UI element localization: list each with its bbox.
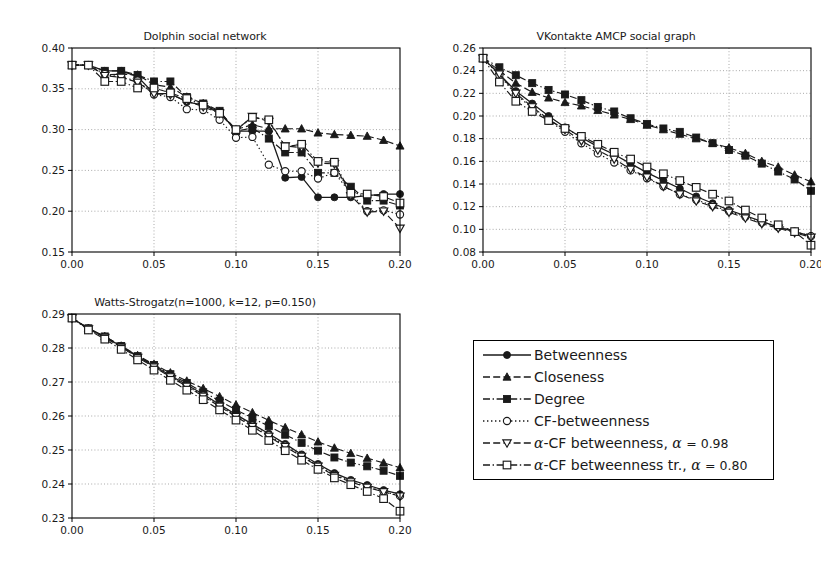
open-circle-marker bbox=[183, 106, 190, 113]
legend-item[interactable]: Degree bbox=[480, 388, 773, 410]
x-tick-label: 0.20 bbox=[388, 524, 411, 536]
open-square-marker bbox=[676, 177, 684, 185]
axis-ticks: 0.230.240.250.260.270.280.290.000.050.10… bbox=[42, 308, 412, 536]
filled-square-marker bbox=[167, 78, 174, 85]
legend-item-label: Closeness bbox=[534, 366, 604, 388]
filled-square-marker bbox=[594, 103, 601, 110]
x-tick-label: 0.05 bbox=[142, 258, 165, 270]
filled-square-marker bbox=[775, 168, 782, 175]
filled-square-marker bbox=[709, 140, 716, 147]
open-square-marker bbox=[561, 125, 569, 133]
legend-item[interactable]: Betweenness bbox=[480, 344, 773, 366]
chart-plot-watts-strogatz: 0.230.240.250.260.270.280.290.000.050.10… bbox=[0, 292, 410, 542]
open-square-marker bbox=[758, 214, 766, 222]
filled-square-marker bbox=[265, 135, 272, 142]
legend-item[interactable]: α-CF betweenness, α = 0.98 bbox=[480, 432, 773, 454]
y-tick-label: 0.14 bbox=[453, 178, 477, 190]
filled-square-marker bbox=[298, 439, 305, 446]
filled-square-marker bbox=[791, 176, 798, 183]
chart-legend: BetweennessClosenessDegreeCF-betweenness… bbox=[473, 340, 774, 480]
y-tick-label: 0.22 bbox=[453, 87, 476, 99]
x-tick-label: 0.20 bbox=[799, 258, 821, 270]
open-square-marker bbox=[85, 326, 93, 334]
open-circle-marker bbox=[249, 133, 256, 140]
y-tick-label: 0.15 bbox=[42, 246, 65, 258]
filled-square-marker bbox=[578, 97, 585, 104]
filled-triangle-up-marker bbox=[512, 79, 520, 86]
open-square-marker bbox=[791, 228, 799, 236]
open-square-marker bbox=[199, 101, 207, 109]
open-square-marker bbox=[298, 456, 306, 464]
filled-triangle-up-marker bbox=[281, 423, 289, 430]
chart-panel-vkontakte: VKontakte AMCP social graph 0.080.100.12… bbox=[411, 26, 821, 276]
open-square-marker bbox=[134, 356, 142, 364]
open-square-marker bbox=[232, 126, 240, 134]
open-square-marker bbox=[692, 184, 700, 192]
y-tick-label: 0.40 bbox=[42, 42, 65, 54]
chart-title-watts-strogatz: Watts-Strogatz(n=1000, k=12, p=0.150) bbox=[0, 296, 410, 309]
open-square-marker bbox=[578, 133, 586, 141]
filled-square-marker bbox=[331, 454, 338, 461]
y-tick-label: 0.08 bbox=[453, 246, 476, 258]
filled-square-marker bbox=[496, 64, 503, 71]
open-square-marker bbox=[725, 197, 733, 205]
chart-panel-watts-strogatz: Watts-Strogatz(n=1000, k=12, p=0.150) 0.… bbox=[0, 292, 410, 542]
y-tick-label: 0.10 bbox=[453, 223, 476, 235]
filled-square-marker bbox=[693, 134, 700, 141]
open-square-marker bbox=[331, 158, 339, 166]
open-square-marker bbox=[117, 78, 125, 86]
open-square-marker bbox=[610, 148, 618, 156]
filled-triangle-up-marker bbox=[314, 438, 322, 445]
x-tick-label: 0.05 bbox=[553, 258, 576, 270]
series-closeness bbox=[68, 314, 404, 471]
filled-square-marker bbox=[742, 152, 749, 159]
y-tick-label: 0.24 bbox=[453, 64, 477, 76]
filled-square-marker bbox=[347, 459, 354, 466]
open-square-marker bbox=[117, 346, 125, 354]
filled-circle-marker bbox=[331, 194, 338, 201]
y-tick-label: 0.24 bbox=[42, 478, 66, 490]
legend-item[interactable]: Closeness bbox=[480, 366, 773, 388]
filled-square-marker bbox=[758, 160, 765, 167]
open-square-marker bbox=[101, 78, 109, 86]
filled-circle-marker bbox=[315, 194, 322, 201]
filled-square-marker bbox=[644, 120, 651, 127]
open-square-marker bbox=[281, 143, 289, 151]
y-tick-label: 0.18 bbox=[453, 132, 476, 144]
open-square-marker bbox=[232, 416, 240, 424]
filled-square-marker bbox=[529, 80, 536, 87]
filled-triangle-up-marker bbox=[363, 132, 371, 139]
legend-sample-open-circle bbox=[480, 410, 534, 432]
legend-item[interactable]: CF-betweenness bbox=[480, 410, 773, 432]
open-square-marker bbox=[314, 158, 322, 166]
open-square-marker bbox=[298, 140, 306, 148]
legend-sample-filled-circle bbox=[480, 344, 534, 366]
open-circle-marker bbox=[298, 168, 305, 175]
open-square-marker bbox=[167, 89, 175, 97]
x-tick-label: 0.10 bbox=[224, 258, 247, 270]
open-square-marker bbox=[183, 95, 191, 103]
filled-square-marker bbox=[512, 72, 519, 79]
filled-square-marker bbox=[611, 108, 618, 115]
open-square-marker bbox=[199, 396, 207, 404]
legend-item-label: CF-betweenness bbox=[534, 410, 650, 432]
open-square-marker bbox=[134, 84, 142, 92]
open-square-marker bbox=[363, 488, 371, 496]
open-square-marker bbox=[331, 474, 339, 482]
open-square-marker bbox=[85, 61, 93, 69]
open-square-marker bbox=[380, 495, 388, 503]
open-square-marker bbox=[528, 108, 536, 116]
x-tick-label: 0.20 bbox=[388, 258, 411, 270]
y-tick-label: 0.27 bbox=[42, 376, 65, 388]
legend-item[interactable]: α-CF betweenness tr., α = 0.80 bbox=[480, 454, 773, 476]
x-tick-label: 0.00 bbox=[471, 258, 494, 270]
y-tick-label: 0.26 bbox=[42, 410, 66, 422]
legend-item-label: α-CF betweenness tr., α = 0.80 bbox=[534, 454, 747, 477]
filled-square-marker bbox=[249, 124, 256, 131]
filled-square-marker bbox=[562, 91, 569, 98]
filled-square-marker bbox=[660, 125, 667, 132]
filled-square-marker bbox=[726, 147, 733, 154]
open-square-marker bbox=[503, 461, 511, 469]
chart-plot-dolphin: 0.150.200.250.300.350.400.000.050.100.15… bbox=[0, 26, 410, 276]
open-square-marker bbox=[216, 406, 224, 414]
